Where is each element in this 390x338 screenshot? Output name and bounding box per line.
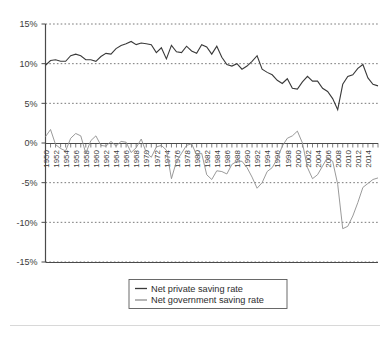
- x-axis-label-1978: 1978: [183, 149, 192, 167]
- y-axis-label--10%: -10%: [16, 218, 37, 228]
- y-axis-label-15%: 15%: [19, 19, 37, 29]
- x-axis-label-1998: 1998: [284, 149, 293, 167]
- x-axis-label-2004: 2004: [314, 149, 323, 167]
- y-axis-label-5%: 5%: [24, 99, 37, 109]
- legend: Net private saving rate Net government s…: [129, 280, 287, 309]
- x-axis-label-1950: 1950: [42, 149, 51, 167]
- x-axis-label-1976: 1976: [173, 149, 182, 167]
- x-axis-label-2002: 2002: [304, 149, 313, 167]
- x-axis-label-1996: 1996: [273, 149, 282, 167]
- x-axis-label-1980: 1980: [193, 149, 202, 167]
- y-axis-label-10%: 10%: [19, 59, 37, 69]
- x-axis-label-2008: 2008: [334, 149, 343, 167]
- x-axis-label-1962: 1962: [102, 149, 111, 167]
- x-axis-label-1960: 1960: [92, 149, 101, 167]
- saving-rate-line-chart: 15%10%5%0%-5%-10%-15% 195019521954195619…: [0, 0, 390, 338]
- x-axis-label-1956: 1956: [72, 149, 81, 167]
- chart-figure: 15%10%5%0%-5%-10%-15% 195019521954195619…: [0, 0, 390, 338]
- x-axis-label-1970: 1970: [142, 149, 151, 167]
- x-axis-label-1968: 1968: [132, 149, 141, 167]
- x-axis-label-2006: 2006: [324, 149, 333, 167]
- x-axis-label-1964: 1964: [112, 149, 121, 167]
- x-axis-label-1984: 1984: [213, 149, 222, 167]
- x-axis-label-1986: 1986: [223, 149, 232, 167]
- y-axis-label--15%: -15%: [16, 257, 37, 267]
- legend-label-net-private-saving-rate: Net private saving rate: [151, 284, 243, 294]
- x-axis-label-2012: 2012: [354, 149, 363, 167]
- x-axis-label-2000: 2000: [294, 149, 303, 167]
- y-axis-label--5%: -5%: [21, 178, 37, 188]
- x-axis-label-1952: 1952: [52, 149, 61, 167]
- x-axis-label-2014: 2014: [364, 149, 373, 167]
- legend-label-net-government-saving-rate: Net government saving rate: [151, 295, 264, 305]
- x-axis-label-1988: 1988: [233, 149, 242, 167]
- x-axis-label-1992: 1992: [253, 149, 262, 167]
- x-axis-label-1966: 1966: [122, 149, 131, 167]
- y-axis-label-0%: 0%: [24, 138, 37, 148]
- x-axis-label-2010: 2010: [344, 149, 353, 167]
- x-axis-label-1994: 1994: [263, 149, 272, 167]
- x-axis-label-1954: 1954: [62, 149, 71, 167]
